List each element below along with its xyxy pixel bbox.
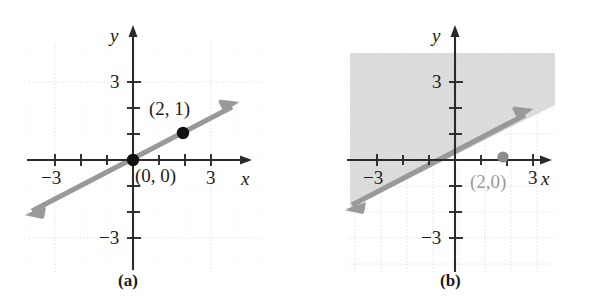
x-axis-label: x bbox=[541, 169, 549, 188]
panel-b-graph bbox=[300, 0, 599, 306]
x-axis-label: x bbox=[241, 169, 249, 188]
y-tick-label-3: 3 bbox=[110, 72, 120, 91]
panel-caption-b: (b) bbox=[440, 272, 461, 289]
y-tick-label-neg3: −3 bbox=[421, 228, 441, 247]
axis-arrows bbox=[129, 25, 253, 165]
panel-a: y x −3 3 3 −3 (2, 1) (0, 0) (a) bbox=[0, 0, 299, 306]
panel-b: y x −3 3 3 −3 (2,0) (b) bbox=[300, 0, 599, 306]
axes bbox=[27, 32, 245, 270]
y-tick-label-3: 3 bbox=[432, 72, 442, 91]
y-axis-label: y bbox=[110, 26, 118, 45]
y-tick-label-neg3: −3 bbox=[99, 228, 119, 247]
figure-container: y x −3 3 3 −3 (2, 1) (0, 0) (a) bbox=[0, 0, 599, 306]
x-tick-label-neg3: −3 bbox=[363, 168, 383, 187]
y-axis-arrow bbox=[451, 25, 460, 37]
y-axis-arrow bbox=[129, 25, 138, 37]
panel-caption-a: (a) bbox=[118, 272, 138, 289]
panel-a-graph bbox=[0, 0, 299, 306]
x-tick-label-3: 3 bbox=[528, 168, 538, 187]
grid-lines bbox=[29, 43, 263, 272]
point-2-0 bbox=[497, 151, 508, 162]
x-tick-label-neg3: −3 bbox=[41, 168, 61, 187]
y-axis-label: y bbox=[432, 26, 440, 45]
point-label-2-0: (2,0) bbox=[470, 172, 506, 191]
point-2-1 bbox=[177, 127, 189, 139]
point-label-2-1: (2, 1) bbox=[149, 99, 190, 118]
x-axis-arrow bbox=[240, 156, 252, 165]
point-label-0-0: (0, 0) bbox=[135, 166, 176, 185]
x-tick-label-3: 3 bbox=[206, 168, 216, 187]
x-axis-arrow bbox=[540, 156, 552, 165]
